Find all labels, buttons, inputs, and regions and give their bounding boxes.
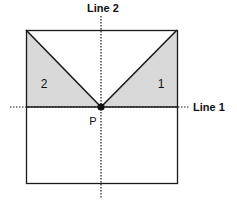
region-2-label: 2 [41,77,48,91]
line-2-label: Line 2 [87,2,119,14]
point-p-label: P [89,115,96,127]
point-p [97,103,104,110]
line-1-label: Line 1 [193,101,225,113]
diagram: Line 2 Line 1 P 2 1 [0,0,237,202]
region-1-label: 1 [158,77,165,91]
